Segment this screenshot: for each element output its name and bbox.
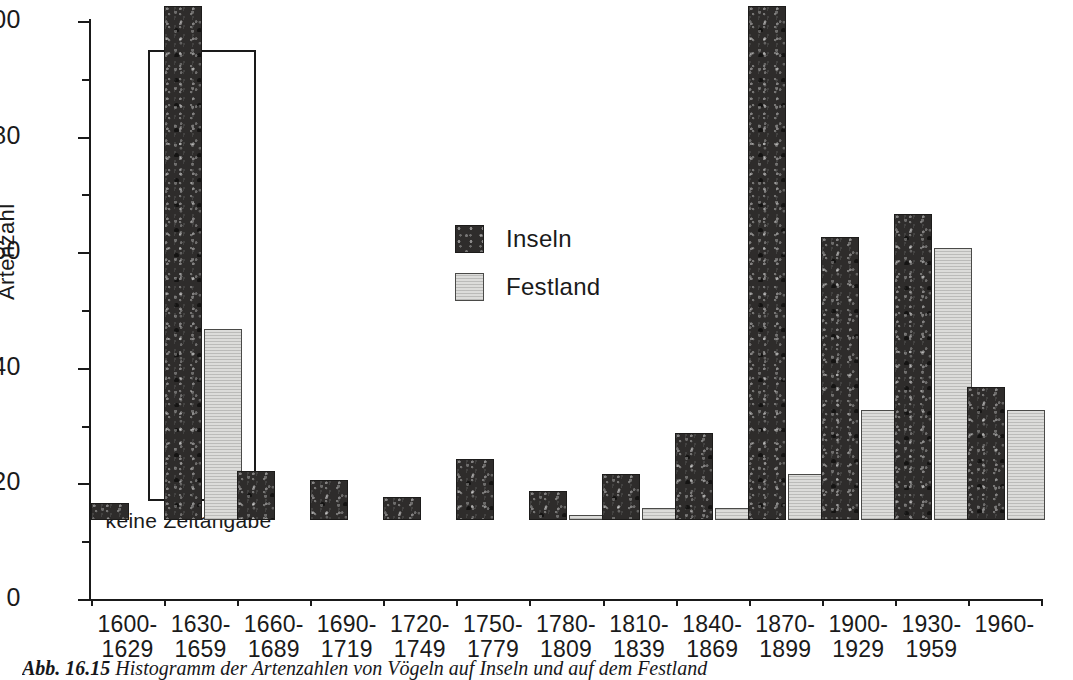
- x-category-label-10: 1900-1929: [822, 612, 895, 662]
- x-tick-0: [91, 599, 93, 606]
- x-tick-3: [310, 599, 312, 606]
- x-category-label-7-line-0: 1810-: [603, 612, 676, 637]
- legend-label-inseln: Inseln: [506, 225, 572, 253]
- legend-item-inseln: Inseln: [455, 225, 572, 253]
- x-category-label-5: 1750-1779: [456, 612, 529, 662]
- legend-swatch-festland: [455, 273, 484, 301]
- bar-inseln-11: [894, 214, 932, 520]
- x-category-label-7: 1810-1839: [603, 612, 676, 662]
- x-category-label-4-line-0: 1720-: [383, 612, 456, 637]
- x-category-label-1: 1630-1659: [164, 612, 237, 662]
- x-category-label-0: 1600-1629: [91, 612, 164, 662]
- bar-inseln-5: [456, 459, 494, 520]
- x-tick-8: [676, 599, 678, 606]
- x-tick-end: [1041, 599, 1043, 606]
- bar-inseln-12: [967, 387, 1005, 520]
- caption-body: Histogramm der Artenzahlen von Vögeln au…: [115, 657, 707, 679]
- x-category-label-12: 1960-: [968, 612, 1041, 637]
- bar-festland-12: [1007, 410, 1045, 520]
- x-axis-line: [89, 599, 1041, 601]
- bar-inseln-8: [675, 433, 713, 520]
- x-tick-1: [164, 599, 166, 606]
- x-category-label-3: 1690-1719: [310, 612, 383, 662]
- x-tick-5: [456, 599, 458, 606]
- x-tick-2: [237, 599, 239, 606]
- x-category-label-0-line-0: 1600-: [91, 612, 164, 637]
- bar-inseln-3: [310, 480, 348, 520]
- bar-inseln-9: [748, 6, 786, 520]
- x-category-label-6-line-0: 1780-: [529, 612, 602, 637]
- x-tick-4: [383, 599, 385, 606]
- x-category-label-8-line-0: 1840-: [676, 612, 749, 637]
- x-category-label-6: 1780-1809: [529, 612, 602, 662]
- x-category-label-12-line-0: 1960-: [968, 612, 1041, 637]
- x-tick-7: [603, 599, 605, 606]
- x-tick-6: [529, 599, 531, 606]
- legend-label-festland: Festland: [506, 273, 600, 301]
- bar-inseln-0: [91, 503, 129, 520]
- figure-caption: Abb. 16.15 Histogramm der Artenzahlen vo…: [22, 657, 1062, 680]
- x-category-label-10-line-0: 1900-: [822, 612, 895, 637]
- x-category-label-3-line-0: 1690-: [310, 612, 383, 637]
- x-category-label-11-line-0: 1930-: [895, 612, 968, 637]
- x-category-label-5-line-0: 1750-: [456, 612, 529, 637]
- bar-inseln-4: [383, 497, 421, 520]
- legend-item-festland: Festland: [455, 273, 600, 301]
- x-category-label-2: 1660-1689: [237, 612, 310, 662]
- caption-number: Abb. 16.15: [22, 657, 110, 679]
- x-tick-11: [895, 599, 897, 606]
- bar-inseln-6: [529, 491, 567, 520]
- y-tick-0: [78, 599, 89, 601]
- x-category-label-9-line-0: 1870-: [749, 612, 822, 637]
- x-category-label-4: 1720-1749: [383, 612, 456, 662]
- bar-inseln-10: [821, 237, 859, 520]
- bar-inseln-7: [602, 474, 640, 520]
- x-category-label-9: 1870-1899: [749, 612, 822, 662]
- legend-swatch-inseln: [455, 225, 484, 253]
- x-category-label-11: 1930-1959: [895, 612, 968, 662]
- x-tick-12: [968, 599, 970, 606]
- x-category-label-2-line-0: 1660-: [237, 612, 310, 637]
- x-tick-10: [822, 599, 824, 606]
- x-category-label-1-line-0: 1630-: [164, 612, 237, 637]
- bar-inseln-2: [237, 471, 275, 520]
- x-category-label-8: 1840-1869: [676, 612, 749, 662]
- x-tick-9: [749, 599, 751, 606]
- bar-inseln-1: [164, 6, 202, 520]
